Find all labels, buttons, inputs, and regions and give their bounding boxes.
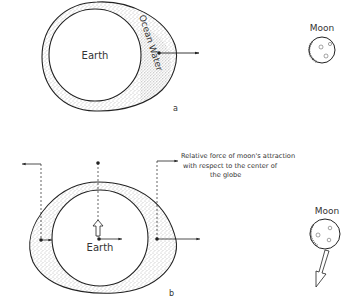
panel-b-label: b: [169, 289, 174, 298]
panel-a: Earth Ocean Water a Moon: [42, 2, 335, 113]
force-annotation: Relative force of moon's attraction with…: [181, 152, 295, 179]
earth-label: Earth: [82, 50, 109, 61]
panel-b: Earth b Relative force of moon's attract…: [22, 152, 340, 298]
svg-text:with respect to the center of: with respect to the center of: [183, 162, 278, 170]
moon-label: Moon: [310, 23, 334, 33]
svg-text:the globe: the globe: [210, 171, 241, 179]
moon-motion-arrow: [316, 250, 329, 287]
earth-label: Earth: [87, 242, 114, 253]
panel-a-label: a: [173, 104, 178, 113]
svg-text:Relative force of moon's attra: Relative force of moon's attraction: [181, 152, 295, 160]
moon-label: Moon: [315, 206, 339, 216]
tidal-diagram: Earth Ocean Water a Moon Earth: [0, 0, 351, 299]
